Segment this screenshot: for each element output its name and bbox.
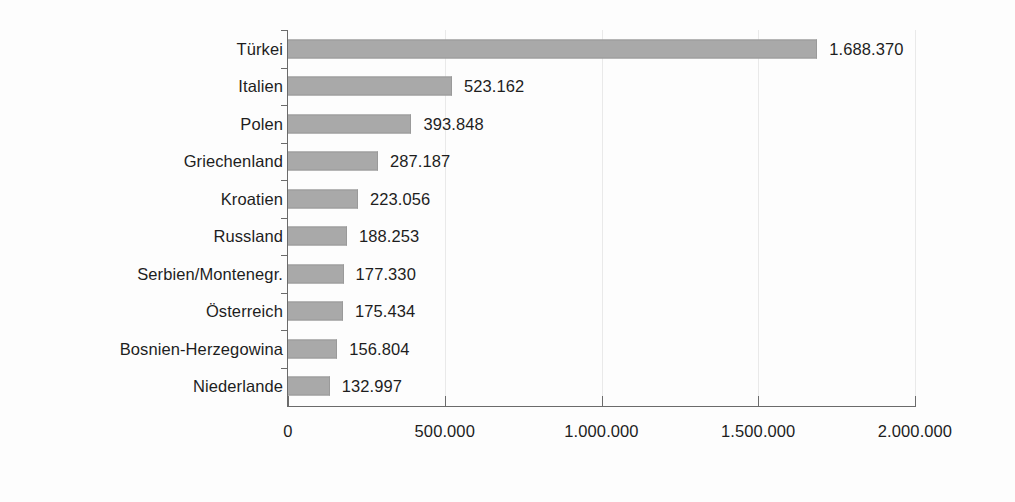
- chart-row: Serbien/Montenegr.177.330: [288, 255, 915, 293]
- bar-value-label: 175.434: [355, 302, 415, 321]
- bar: [288, 39, 817, 58]
- chart-row: Kroatien223.056: [288, 180, 915, 218]
- category-label: Bosnien-Herzegowina: [0, 339, 283, 358]
- bar-value-label: 393.848: [423, 114, 483, 133]
- category-label: Italien: [0, 77, 283, 96]
- chart-row: Italien523.162: [288, 68, 915, 106]
- bar: [288, 377, 330, 396]
- x-axis-tick-label: 1.500.000: [721, 422, 795, 441]
- bar: [288, 114, 411, 133]
- category-label: Türkei: [0, 39, 283, 58]
- gridline: [915, 30, 916, 405]
- category-label: Österreich: [0, 302, 283, 321]
- chart-row: Griechenland287.187: [288, 143, 915, 181]
- x-axis-end-cap: [915, 396, 916, 407]
- bar: [288, 152, 378, 171]
- chart-row: Polen393.848: [288, 105, 915, 143]
- category-label: Russland: [0, 227, 283, 246]
- bar-value-label: 177.330: [356, 264, 416, 283]
- x-axis-tick: [758, 396, 759, 406]
- chart-row: Russland188.253: [288, 218, 915, 256]
- chart-row: Türkei1.688.370: [288, 30, 915, 68]
- y-axis-line: [287, 30, 288, 407]
- plot-area: Türkei1.688.370Italien523.162Polen393.84…: [288, 30, 915, 405]
- bar-value-label: 287.187: [390, 152, 450, 171]
- x-axis-tick: [445, 396, 446, 406]
- category-label: Polen: [0, 114, 283, 133]
- category-label: Serbien/Montenegr.: [0, 264, 283, 283]
- bar: [288, 77, 452, 96]
- category-label: Kroatien: [0, 189, 283, 208]
- category-label: Niederlande: [0, 377, 283, 396]
- category-label: Griechenland: [0, 152, 283, 171]
- bar: [288, 264, 344, 283]
- bar-value-label: 1.688.370: [829, 39, 903, 58]
- x-axis-tick-label: 2.000.000: [878, 422, 952, 441]
- bar: [288, 227, 347, 246]
- chart-page: Türkei1.688.370Italien523.162Polen393.84…: [0, 0, 1015, 502]
- x-axis-tick-label: 1.000.000: [564, 422, 638, 441]
- bar: [288, 189, 358, 208]
- bar: [288, 302, 343, 321]
- x-axis-tick-label: 0: [283, 422, 292, 441]
- bar-value-label: 156.804: [349, 339, 409, 358]
- chart-row: Österreich175.434: [288, 293, 915, 331]
- x-axis-tick-labels: 0500.0001.000.0001.500.0002.000.000: [288, 406, 915, 466]
- x-axis-tick: [288, 396, 289, 406]
- x-axis-tick-label: 500.000: [415, 422, 475, 441]
- bar-value-label: 523.162: [464, 77, 524, 96]
- x-axis-tick: [602, 396, 603, 406]
- bar-value-label: 132.997: [342, 377, 402, 396]
- chart-row: Bosnien-Herzegowina156.804: [288, 330, 915, 368]
- bar-value-label: 223.056: [370, 189, 430, 208]
- bar-value-label: 188.253: [359, 227, 419, 246]
- bar: [288, 339, 337, 358]
